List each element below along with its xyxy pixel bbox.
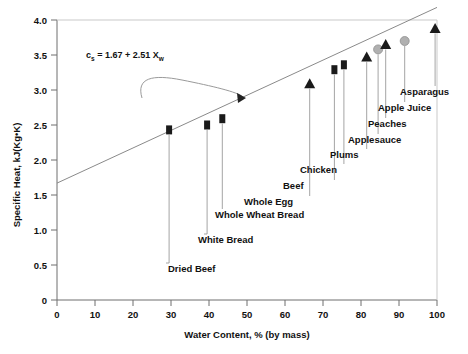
data-point-label: Applesauce [348, 134, 401, 145]
data-point [331, 65, 337, 74]
x-tick-label: 20 [128, 309, 139, 320]
square-marker-icon [166, 125, 172, 134]
square-marker-icon [341, 60, 347, 69]
circle-marker-icon [400, 37, 409, 46]
specific-heat-vs-water-content-chart: 00.51.01.52.02.53.03.54.0 01020304050607… [0, 0, 468, 354]
square-marker-icon [219, 114, 225, 123]
x-axis-title: Water Content, % (by mass) [184, 329, 309, 340]
equation-text: cs = 1.67 + 2.51 Xw [86, 50, 165, 62]
data-point-label: Apple Juice [378, 102, 431, 113]
y-tick-label: 0.5 [34, 260, 48, 271]
data-point [374, 45, 383, 54]
y-tick-label: 3.0 [34, 85, 47, 96]
circle-marker-icon [374, 45, 383, 54]
x-tick-label: 10 [90, 309, 101, 320]
data-point [341, 60, 347, 69]
x-tick-label: 100 [429, 309, 445, 320]
y-tick-label: 1.0 [34, 225, 47, 236]
y-tick-label: 2.5 [34, 120, 48, 131]
y-tick-label: 4.0 [34, 15, 47, 26]
x-tick-label: 60 [280, 309, 291, 320]
y-tick-label: 1.5 [34, 190, 48, 201]
data-point [400, 37, 409, 46]
data-point [166, 125, 172, 134]
y-tick-label: 0 [42, 295, 47, 306]
x-tick-label: 30 [166, 309, 177, 320]
x-tick-label: 70 [318, 309, 329, 320]
y-axis-title: Specific Heat, kJ(Kg•K) [11, 123, 22, 228]
data-point-label: Plums [330, 149, 359, 160]
data-point-label: Asparagus [400, 86, 449, 97]
x-tick-label: 50 [242, 309, 253, 320]
data-point [219, 114, 225, 123]
data-point-label: Chicken [300, 164, 337, 175]
square-marker-icon [204, 121, 210, 130]
x-tick-label: 80 [356, 309, 367, 320]
square-marker-icon [331, 65, 337, 74]
y-tick-label: 3.5 [34, 50, 48, 61]
data-point-label: Beef [283, 180, 304, 191]
x-tick-label: 0 [54, 309, 59, 320]
data-point-label: White Bread [198, 234, 254, 245]
data-point [204, 121, 210, 130]
x-tick-label: 90 [394, 309, 405, 320]
data-point-label: Peaches [368, 118, 407, 129]
data-point-label: Dried Beef [168, 263, 216, 274]
chart-container: 00.51.01.52.02.53.03.54.0 01020304050607… [0, 0, 468, 354]
data-point-label: Whole Wheat Bread [215, 209, 304, 220]
x-tick-label: 40 [204, 309, 215, 320]
y-tick-label: 2.0 [34, 155, 47, 166]
data-point-label: Whole Egg [244, 196, 293, 207]
